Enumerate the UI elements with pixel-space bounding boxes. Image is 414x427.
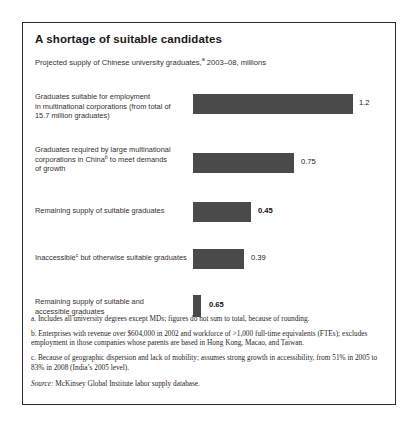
bar-row-label-line: 15.7 million graduates)	[35, 111, 110, 120]
bar-3	[193, 202, 251, 222]
bar-row-label: Remaining supply of suitable graduates	[35, 206, 187, 216]
exhibit-subtitle: Projected supply of Chinese university g…	[35, 58, 266, 67]
footnote-b: b. Enterprises with revenue over $604,00…	[31, 329, 389, 348]
bar-row-label: Inaccessiblec but otherwise suitable gra…	[35, 253, 195, 263]
bar-row-label-line: of growth	[35, 164, 65, 173]
bar-row-label-line: Remaining supply of suitable and	[35, 297, 144, 306]
footnote-a: a. Includes all university degrees excep…	[31, 314, 389, 323]
bar-row-label-line: Graduates suitable for employment	[35, 92, 150, 101]
bar-row: Graduates suitable for employment in mul…	[23, 85, 395, 141]
bar-row-label-line: in multinational corporations (from tota…	[35, 102, 171, 111]
exhibit-frame: A shortage of suitable candidates Projec…	[22, 22, 396, 405]
footnote-c: c. Because of geographic dispersion and …	[31, 353, 389, 372]
bar-row-label: Graduates suitable for employment in mul…	[35, 92, 187, 121]
bar-row-label-line: Inaccessible	[35, 253, 76, 262]
subtitle-text: Projected supply of Chinese university g…	[35, 58, 202, 67]
bar-row-label-line-tail: but otherwise suitable graduates	[78, 253, 186, 262]
source-text: McKinsey Global Institute labor supply d…	[53, 379, 200, 388]
exhibit-title: A shortage of suitable candidates	[35, 33, 222, 45]
footnotes: a. Includes all university degrees excep…	[31, 314, 389, 388]
subtitle-text-tail: 2003–08, millions	[205, 58, 266, 67]
bar-value-label: 0.65	[209, 300, 224, 309]
bar-value-label: 0.45	[258, 206, 273, 215]
exhibit-inner: A shortage of suitable candidates Projec…	[23, 23, 395, 404]
bar-row-label-line: Graduates required by large multinationa…	[35, 145, 171, 154]
bar-row: Graduates required by large multinationa…	[23, 141, 395, 193]
bar-value-label: 0.75	[301, 157, 316, 166]
bar-value-label: 1.2	[359, 98, 370, 107]
bar-4	[193, 249, 244, 269]
bar-row-label-line: Remaining supply of suitable graduates	[35, 206, 164, 215]
source-label: Source:	[31, 379, 53, 388]
bar-2	[193, 153, 294, 173]
bar-1	[193, 94, 353, 114]
bar-row: Remaining supply of suitable graduates 0…	[23, 193, 395, 241]
bar-value-label: 0.39	[251, 253, 266, 262]
bar-row-label-line-tail: to meet demands	[108, 155, 167, 164]
bar-row-label-line: corporations in China	[35, 155, 105, 164]
source-line: Source: McKinsey Global Institute labor …	[31, 379, 389, 388]
bar-row-label: Graduates required by large multinationa…	[35, 145, 187, 174]
bar-row: Inaccessiblec but otherwise suitable gra…	[23, 241, 395, 287]
